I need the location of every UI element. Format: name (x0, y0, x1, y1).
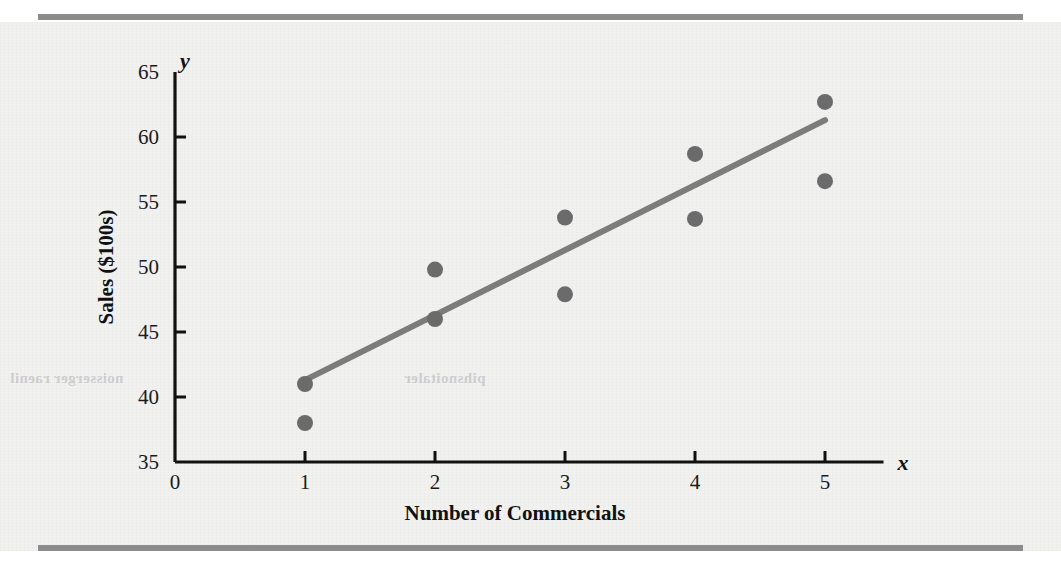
data-point (427, 262, 443, 278)
x-axis-variable-label: x (897, 450, 909, 475)
x-tick-label: 0 (170, 470, 181, 494)
y-tick-label: 65 (138, 60, 159, 84)
regression-line-segment (305, 120, 825, 380)
y-tick-label: 55 (138, 190, 159, 214)
data-point (817, 173, 833, 189)
y-axis-variable-label: y (177, 48, 190, 73)
y-tick-label: 60 (138, 125, 159, 149)
data-point (557, 210, 573, 226)
x-axis-title: Number of Commercials (405, 501, 626, 525)
data-point (817, 94, 833, 110)
axis-titles: yxNumber of CommercialsSales ($100s) (94, 48, 909, 525)
y-tick-label: 45 (138, 320, 159, 344)
regression-line (305, 120, 825, 380)
x-tick-label: 4 (690, 470, 701, 494)
x-tick-label: 1 (300, 470, 311, 494)
tick-labels: 35404550556065012345 (138, 60, 830, 494)
data-point (687, 146, 703, 162)
data-point (297, 376, 313, 392)
data-point (557, 286, 573, 302)
tick-marks (175, 137, 825, 462)
x-tick-label: 5 (820, 470, 831, 494)
y-axis-title: Sales ($100s) (94, 210, 118, 325)
data-point (687, 211, 703, 227)
y-tick-label: 50 (138, 255, 159, 279)
top-rule (38, 14, 1023, 20)
page-margin-bottom (0, 551, 1061, 569)
data-points (297, 94, 833, 431)
scatter-plot: 35404550556065012345 yxNumber of Commerc… (0, 0, 1061, 569)
x-tick-label: 3 (560, 470, 571, 494)
y-tick-label: 40 (138, 385, 159, 409)
data-point (427, 311, 443, 327)
data-point (297, 415, 313, 431)
figure-page: noisserger raenil pihsnoitaler 354045505… (0, 0, 1061, 569)
y-tick-label: 35 (138, 450, 159, 474)
bottom-rule (38, 545, 1023, 551)
x-tick-label: 2 (430, 470, 441, 494)
